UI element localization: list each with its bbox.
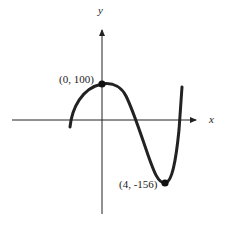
x-axis-label: x (209, 113, 214, 125)
function-curve (70, 84, 182, 183)
graph-canvas (0, 0, 225, 231)
local-min-label: (4, -156) (119, 178, 158, 190)
y-axis-label: y (98, 4, 103, 16)
local-max-point (98, 80, 105, 87)
local-max-label: (0, 100) (59, 73, 94, 85)
local-min-point (161, 179, 168, 186)
